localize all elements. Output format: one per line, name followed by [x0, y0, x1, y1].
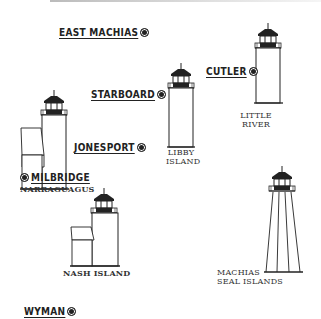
bullseye-dot-icon — [249, 67, 258, 76]
lighthouse-name-machias-seal-islands: MACHIAS SEAL ISLANDS — [217, 268, 283, 286]
town-jonesport-label: JONESPORT — [74, 142, 135, 153]
lighthouse-name-libby-island: LIBBY ISLAND — [166, 148, 196, 166]
little-river-lighthouse — [254, 23, 283, 103]
lighthouse-name-narraguagus: NARRAGUAGUS — [20, 185, 95, 194]
libby-line-1: LIBBY — [166, 148, 196, 157]
nash-island-lighthouse — [70, 188, 120, 266]
town-east-machias-label: EAST MACHIAS — [59, 27, 138, 38]
town-starboard: STARBOARD — [91, 89, 168, 100]
little-river-line-1: LITTLE — [236, 111, 276, 120]
machias-seal-islands-lighthouse — [264, 166, 303, 272]
bullseye-dot-icon — [20, 173, 29, 182]
lighthouse-name-little-river: LITTLE RIVER — [236, 111, 276, 129]
bullseye-dot-icon — [157, 90, 166, 99]
town-milbridge: MILBRIDGE — [18, 172, 90, 183]
bullseye-dot-icon — [67, 307, 76, 316]
bullseye-dot-icon — [137, 143, 146, 152]
town-starboard-label: STARBOARD — [91, 89, 155, 100]
libby-island-lighthouse — [167, 63, 195, 147]
town-milbridge-label: MILBRIDGE — [31, 172, 90, 183]
town-jonesport: JONESPORT — [74, 142, 148, 153]
town-wyman-label: WYMAN — [24, 306, 65, 317]
machias-seal-line-1: MACHIAS — [217, 268, 283, 277]
bullseye-dot-icon — [140, 28, 149, 37]
libby-line-2: ISLAND — [166, 157, 196, 166]
town-cutler-label: CUTLER — [206, 66, 247, 77]
little-river-line-2: RIVER — [236, 120, 276, 129]
town-east-machias: EAST MACHIAS — [59, 27, 151, 38]
lighthouse-name-nash-island: NASH ISLAND — [63, 269, 130, 278]
town-cutler: CUTLER — [206, 66, 260, 77]
machias-seal-line-2: SEAL ISLANDS — [217, 277, 283, 286]
town-wyman: WYMAN — [24, 306, 78, 317]
